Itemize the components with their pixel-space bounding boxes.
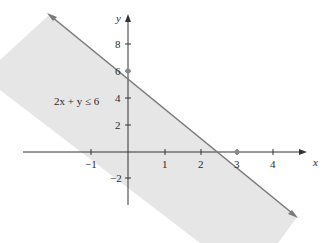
inequality-label: 2x + y ≤ 6 <box>54 95 100 107</box>
x-axis-arrow-icon <box>299 149 307 155</box>
y-tick-label: 8 <box>115 38 121 50</box>
x-tick-label: 1 <box>162 158 168 170</box>
inequality-graph: y x −1 1 2 3 4 8 6 4 2 −2 2x + y ≤ 6 <box>0 0 335 243</box>
x-tick-label: 2 <box>198 158 204 170</box>
y-axis-arrow-icon <box>125 14 131 22</box>
y-tick-label: −2 <box>110 172 122 184</box>
x-axis-label: x <box>312 156 318 168</box>
y-tick-label: 6 <box>115 65 121 77</box>
y-tick-label: 2 <box>115 119 121 131</box>
shaded-region <box>0 15 297 243</box>
y-tick-label: 4 <box>115 92 121 104</box>
x-tick-label: 3 <box>234 158 240 170</box>
x-tick-label: 4 <box>270 158 276 170</box>
y-intercept-point <box>126 69 131 74</box>
y-axis-label: y <box>115 12 121 24</box>
x-tick-label: −1 <box>85 158 97 170</box>
x-intercept-point <box>235 150 240 155</box>
